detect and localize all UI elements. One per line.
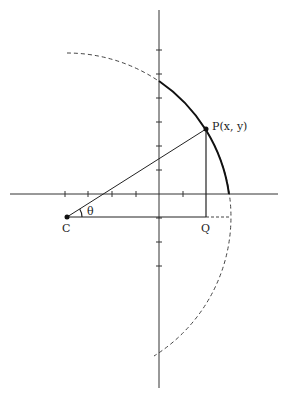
label-theta: θ [87, 205, 94, 218]
segment-cp [67, 129, 206, 217]
label-c: C [62, 222, 70, 235]
solid-circle-arc [159, 81, 229, 194]
point-c [65, 215, 70, 220]
angle-arc [80, 209, 82, 217]
point-p [204, 127, 209, 132]
label-q: Q [201, 222, 210, 235]
diagram-canvas: P(x, y) C Q θ [0, 0, 288, 398]
label-p: P(x, y) [212, 120, 247, 133]
